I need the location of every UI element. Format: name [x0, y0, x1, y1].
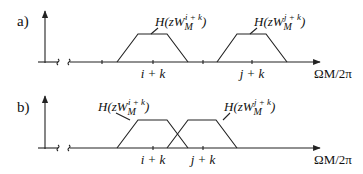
tick-label-i-k-b: i + k — [141, 152, 166, 167]
panel-label-a: a) — [17, 13, 29, 30]
filter-response-j-b — [167, 120, 237, 148]
leader-line — [223, 113, 230, 120]
axis-break-icon — [68, 59, 70, 65]
x-axis-label-a: ΩM/2π — [314, 66, 352, 81]
filter-label-i-a: H(zWMi + k) — [154, 12, 206, 32]
filter-response-i-a — [117, 34, 188, 62]
panel-b: b) H(zWMi + k) H(zWMj + k) i + k j + k Ω… — [17, 96, 352, 167]
filter-response-j-a — [217, 34, 287, 62]
filter-bank-diagram: a) H(zWMi + k) H(zWMj + k) i + k j + k Ω… — [0, 0, 363, 174]
filter-label-j-b: H(zWMj + k) — [223, 97, 275, 117]
filter-label-j-a: H(zWMj + k) — [253, 12, 305, 32]
x-axis-label-b: ΩM/2π — [314, 152, 352, 167]
axis-break-icon — [57, 145, 59, 151]
tick-label-i-k-a: i + k — [141, 66, 166, 81]
panel-a: a) H(zWMi + k) H(zWMj + k) i + k j + k Ω… — [17, 11, 352, 81]
filter-label-i-b: H(zWMi + k) — [97, 97, 149, 117]
panel-label-b: b) — [17, 99, 30, 116]
axis-break-icon — [68, 145, 70, 151]
tick-label-j-k-a: j + k — [238, 66, 265, 81]
axis-break-icon — [57, 59, 59, 65]
tick-label-j-k-b: j + k — [189, 152, 216, 167]
